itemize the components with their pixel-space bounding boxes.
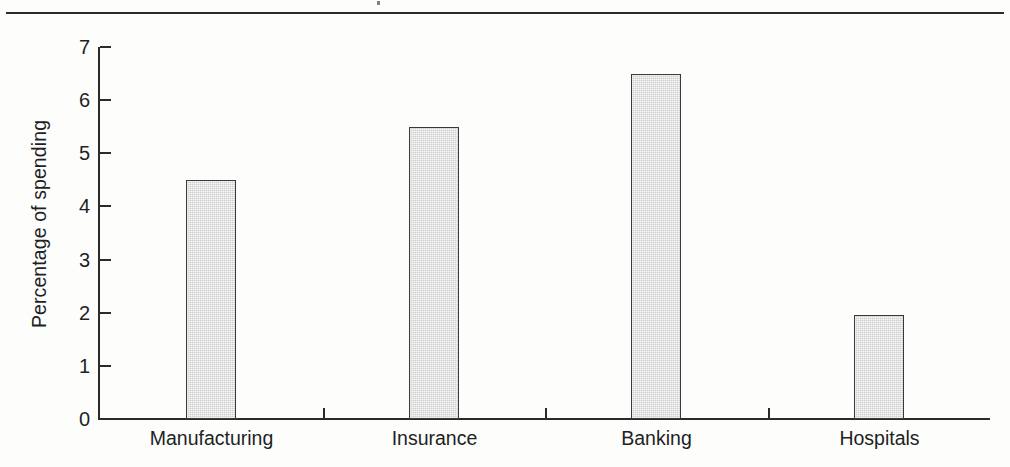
y-axis-tick-label: 1 [56, 356, 90, 376]
y-axis-tick [100, 312, 111, 314]
x-axis-label-insurance: Insurance [323, 426, 546, 450]
x-axis-separator-tick [768, 408, 770, 419]
chart-figure: Percentage of spending 01234567 Manufact… [0, 0, 1010, 467]
bar-hospitals [854, 315, 904, 419]
x-axis-label-hospitals: Hospitals [768, 426, 991, 450]
y-axis-tick [100, 46, 111, 48]
y-axis-title: Percentage of spending [26, 38, 52, 410]
y-axis-tick [100, 418, 111, 420]
bar-insurance [409, 127, 459, 419]
y-axis-tick-label: 0 [56, 409, 90, 429]
bar-banking [631, 74, 681, 419]
y-axis-tick-label: 7 [56, 37, 90, 57]
x-axis-separator-tick [545, 408, 547, 419]
x-axis-label-banking: Banking [545, 426, 768, 450]
y-axis-tick [100, 152, 111, 154]
y-axis-tick [100, 259, 111, 261]
y-axis-tick [100, 365, 111, 367]
y-axis-tick [100, 99, 111, 101]
x-axis-label-manufacturing: Manufacturing [100, 426, 323, 450]
x-axis-separator-tick [323, 408, 325, 419]
y-axis-tick [100, 205, 111, 207]
y-axis-tick-label: 5 [56, 143, 90, 163]
y-axis-tick-label: 4 [56, 196, 90, 216]
plot-area: Percentage of spending 01234567 Manufact… [0, 0, 1010, 467]
y-axis-tick-label: 3 [56, 250, 90, 270]
y-axis-tick-label: 6 [56, 90, 90, 110]
y-axis-tick-label: 2 [56, 303, 90, 323]
bar-manufacturing [186, 180, 236, 419]
